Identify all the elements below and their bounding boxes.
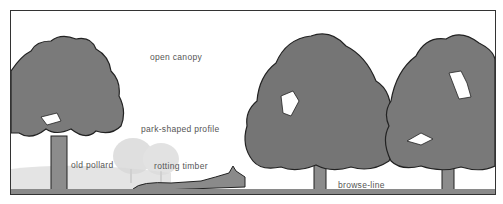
label-browse-line: browse-line (338, 180, 385, 190)
illustration-frame: open canopy park-shaped profile old poll… (10, 10, 496, 195)
ground-strip (11, 189, 495, 194)
label-open-canopy: open canopy (150, 52, 202, 62)
label-old-pollard: old pollard (71, 160, 114, 170)
label-park-shaped-profile: park-shaped profile (141, 124, 219, 134)
right-tree (385, 35, 495, 191)
middle-tree (245, 34, 395, 191)
label-rotting-timber: rotting timber (154, 161, 208, 171)
